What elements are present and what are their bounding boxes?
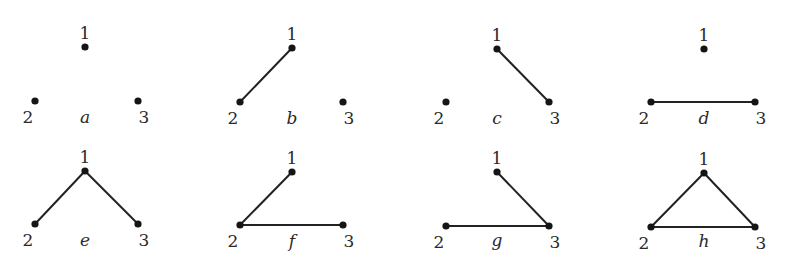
- node-label-2: 2: [23, 107, 34, 127]
- node-1: [700, 45, 707, 52]
- node-3: [751, 98, 758, 105]
- node-1: [81, 167, 88, 174]
- node-label-3: 3: [756, 108, 767, 128]
- edge-1-3: [704, 173, 755, 227]
- node-label-2: 2: [434, 232, 445, 252]
- graph-label: a: [80, 107, 90, 127]
- graph-f: 123f: [228, 148, 355, 251]
- node-3: [134, 220, 141, 227]
- graph-b: 123b: [228, 24, 355, 128]
- node-label-1: 1: [287, 24, 298, 44]
- node-label-2: 2: [639, 233, 650, 253]
- graph-label: h: [699, 231, 710, 251]
- node-1: [288, 44, 295, 51]
- node-1: [493, 45, 500, 52]
- node-1: [493, 168, 500, 175]
- graph-label: d: [699, 108, 710, 128]
- graph-c: 123c: [434, 25, 561, 128]
- node-1: [700, 169, 707, 176]
- edge-1-2: [240, 48, 292, 102]
- edge-1-3: [497, 49, 549, 102]
- node-3: [339, 221, 346, 228]
- node-2: [236, 221, 243, 228]
- graph-h: 123h: [639, 149, 767, 253]
- node-label-1: 1: [80, 23, 91, 43]
- node-1: [288, 168, 295, 175]
- node-label-2: 2: [228, 231, 239, 251]
- edge-1-2: [35, 171, 85, 224]
- graph-d: 123d: [639, 25, 767, 128]
- node-label-1: 1: [287, 148, 298, 168]
- graph-g: 123g: [434, 148, 561, 252]
- node-2: [442, 222, 449, 229]
- node-label-1: 1: [699, 25, 710, 45]
- node-label-2: 2: [434, 108, 445, 128]
- node-label-3: 3: [550, 108, 561, 128]
- node-label-1: 1: [699, 149, 710, 169]
- node-2: [442, 98, 449, 105]
- node-label-3: 3: [344, 108, 355, 128]
- node-label-3: 3: [139, 107, 150, 127]
- edge-1-2: [651, 173, 704, 227]
- graph-label: b: [287, 108, 298, 128]
- node-2: [236, 98, 243, 105]
- node-label-3: 3: [756, 233, 767, 253]
- node-label-1: 1: [80, 147, 91, 167]
- node-2: [647, 98, 654, 105]
- graph-label: e: [80, 230, 90, 250]
- node-label-1: 1: [492, 148, 503, 168]
- node-label-3: 3: [139, 230, 150, 250]
- node-2: [31, 220, 38, 227]
- edge-1-3: [85, 171, 138, 224]
- node-label-2: 2: [228, 108, 239, 128]
- node-label-2: 2: [23, 230, 34, 250]
- node-3: [339, 98, 346, 105]
- edge-1-3: [497, 172, 549, 226]
- node-3: [134, 97, 141, 104]
- node-2: [647, 223, 654, 230]
- graph-a: 123a: [23, 23, 150, 127]
- node-2: [31, 97, 38, 104]
- node-label-3: 3: [550, 232, 561, 252]
- node-3: [751, 223, 758, 230]
- graph-label: g: [492, 230, 503, 250]
- node-1: [81, 43, 88, 50]
- graph-diagram: 123a123b123c123d123e123f123g123h: [0, 0, 790, 262]
- graph-label: f: [287, 231, 298, 251]
- node-label-1: 1: [492, 25, 503, 45]
- node-label-2: 2: [639, 108, 650, 128]
- graph-label: c: [492, 108, 502, 128]
- node-3: [545, 98, 552, 105]
- edge-1-2: [240, 172, 292, 225]
- graph-e: 123e: [23, 147, 150, 250]
- node-label-3: 3: [344, 231, 355, 251]
- node-3: [545, 222, 552, 229]
